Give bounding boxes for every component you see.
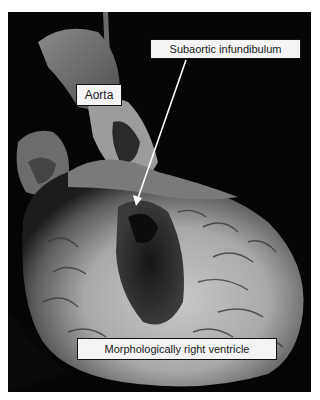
label-aorta: Aorta (76, 84, 122, 106)
specimen-photo (8, 12, 311, 392)
label-subaortic-infundibulum: Subaortic infundibulum (150, 39, 301, 59)
label-right-ventricle: Morphologically right ventricle (77, 338, 277, 360)
heart-specimen-illustration (8, 12, 311, 392)
